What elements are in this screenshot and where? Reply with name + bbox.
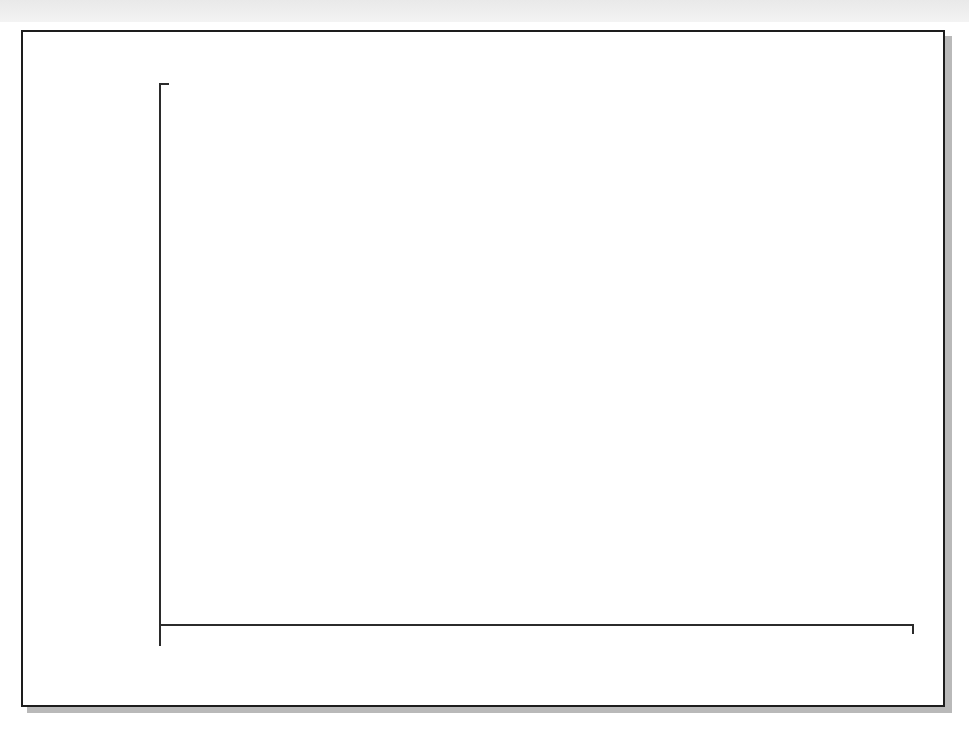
- y-axis-line: [159, 83, 161, 646]
- x-axis-end-cap: [912, 624, 914, 634]
- page-top-strip: [0, 0, 969, 22]
- y-axis-top-cap: [159, 83, 169, 85]
- chart-plot-area: [23, 32, 943, 705]
- figure-frame: [21, 30, 945, 707]
- x-axis-line: [159, 624, 914, 626]
